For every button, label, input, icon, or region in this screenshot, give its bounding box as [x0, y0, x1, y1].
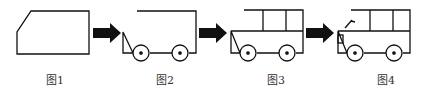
figure-4-caption: 图4	[366, 71, 406, 87]
figure-4-complete-car	[338, 10, 410, 61]
arrow-icon	[306, 23, 334, 43]
figure-2-caption: 图2	[145, 71, 185, 87]
figure-3-car-with-windows	[231, 10, 303, 61]
figure-2-car-with-wheels	[123, 11, 196, 61]
figure-1-caption: 图1	[35, 71, 75, 87]
figure-1-car-body	[17, 11, 89, 54]
arrow-icon	[199, 23, 227, 43]
arrow-icon	[93, 23, 121, 43]
figure-3-caption: 图3	[256, 71, 296, 87]
